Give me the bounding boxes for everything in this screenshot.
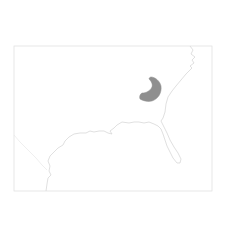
map-frame <box>14 46 212 191</box>
coastline <box>46 46 195 191</box>
map-canvas <box>0 0 243 228</box>
state-line <box>14 135 47 170</box>
range-map <box>0 0 243 228</box>
range-area <box>140 77 162 101</box>
